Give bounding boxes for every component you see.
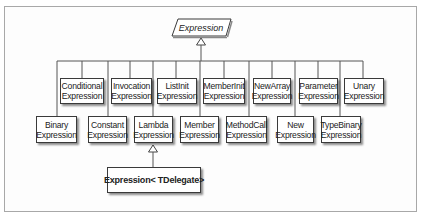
class-methodcall-expression: MethodCall Expression (226, 116, 267, 143)
class-name-line2: Expression (204, 91, 245, 101)
class-name-line1: ListInit (165, 81, 188, 91)
class-name: Expression< TDelegate> (104, 175, 204, 185)
root-class-label: Expression (179, 23, 224, 33)
class-parameter-expression: Parameter Expression (299, 78, 338, 104)
class-binary-expression: Binary Expression (36, 116, 77, 143)
class-newarray-expression: NewArray Expression (253, 78, 291, 104)
class-member-expression: Member Expression (180, 116, 219, 143)
class-name-line2: Expression (133, 130, 174, 140)
class-unary-expression: Unary Expression (344, 78, 384, 104)
class-name-line1: Parameter (299, 81, 337, 91)
class-name-line1: Lambda (139, 120, 169, 130)
class-new-expression: New Expression (277, 116, 314, 143)
class-name-line1: Invocation (113, 81, 150, 91)
class-name-line2: Expression (226, 130, 267, 140)
class-name-line1: TypeBinary (321, 120, 362, 130)
class-name-line2: Expression (344, 91, 385, 101)
class-name-line2: Expression (111, 91, 152, 101)
class-name-line2: Expression (275, 130, 316, 140)
class-expression-tdelegate: Expression< TDelegate> (107, 167, 201, 193)
class-name-line2: Expression (36, 130, 77, 140)
class-name-line1: Member (184, 120, 214, 130)
class-name-line2: Expression (252, 91, 293, 101)
class-constant-expression: Constant Expression (88, 116, 127, 143)
class-name-line1: NewArray (254, 81, 290, 91)
class-name-line2: Expression (179, 130, 220, 140)
class-typebinary-expression: TypeBinary Expression (321, 116, 361, 143)
class-memberinit-expression: MemberInit Expression (203, 78, 245, 104)
class-name-line1: Binary (45, 120, 68, 130)
class-name-line1: MethodCall (226, 120, 267, 130)
class-name-line2: Expression (87, 130, 128, 140)
class-name-line2: Expression (321, 130, 362, 140)
class-name-line2: Expression (157, 91, 198, 101)
class-invocation-expression: Invocation Expression (111, 78, 152, 104)
class-lambda-expression: Lambda Expression (134, 116, 173, 143)
class-name-line1: New (287, 120, 304, 130)
class-name-line1: Conditional (62, 81, 103, 91)
class-name-line1: Constant (91, 120, 124, 130)
class-name-line1: MemberInit (204, 81, 245, 91)
class-name-line2: Expression (62, 91, 103, 101)
class-name-line2: Expression (298, 91, 339, 101)
root-class-expression: Expression (174, 19, 228, 36)
class-conditional-expression: Conditional Expression (60, 78, 104, 104)
class-listinit-expression: ListInit Expression (157, 78, 197, 104)
class-name-line1: Unary (353, 81, 375, 91)
